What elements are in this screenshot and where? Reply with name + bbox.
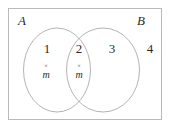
set-label-b: B [137, 14, 145, 27]
region-number-2: 2 [72, 42, 86, 55]
set-label-a: A [18, 14, 26, 27]
point-label-m: m [37, 70, 55, 80]
region-number-3: 3 [105, 42, 119, 55]
region-number-1: 1 [40, 42, 54, 55]
point-marker-region-1: × m [37, 63, 55, 80]
point-label-m: m [70, 70, 88, 80]
venn-diagram-figure: A B 1 2 3 4 × m × m [0, 0, 171, 129]
region-number-4: 4 [143, 42, 157, 55]
point-marker-region-2: × m [70, 63, 88, 80]
